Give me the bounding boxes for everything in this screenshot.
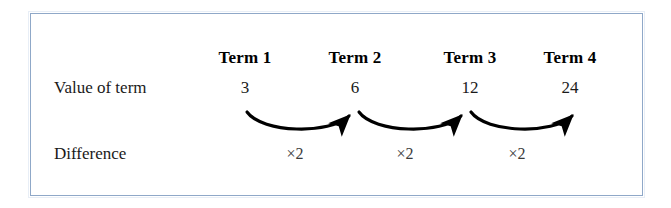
column-header-term-3: Term 3 bbox=[415, 48, 525, 68]
row-label-difference: Difference bbox=[54, 144, 126, 164]
column-header-term-2: Term 2 bbox=[300, 48, 410, 68]
difference-label-1: ×2 bbox=[265, 144, 325, 164]
difference-label-3: ×2 bbox=[487, 144, 547, 164]
sequence-diagram-figure: Value of term Difference Term 1 3 Term 2… bbox=[0, 0, 671, 208]
column-value-term-4: 24 bbox=[515, 78, 625, 98]
figure-border bbox=[30, 13, 643, 196]
column-value-term-3: 12 bbox=[415, 78, 525, 98]
difference-label-2: ×2 bbox=[375, 144, 435, 164]
column-value-term-1: 3 bbox=[190, 78, 300, 98]
column-header-term-1: Term 1 bbox=[190, 48, 300, 68]
column-value-term-2: 6 bbox=[300, 78, 410, 98]
column-header-term-4: Term 4 bbox=[515, 48, 625, 68]
row-label-value-of-term: Value of term bbox=[54, 78, 147, 98]
